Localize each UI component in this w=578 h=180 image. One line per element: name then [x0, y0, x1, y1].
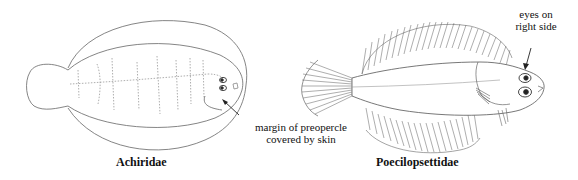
eyes-annotation: eyes on right side	[506, 8, 566, 32]
achiridae-drawing	[27, 21, 247, 150]
achiridae-eyes	[220, 77, 227, 90]
preopercle-annotation-line1: margin of preopercle	[236, 121, 366, 133]
preopercle-annotation: margin of preopercle covered by skin	[236, 121, 366, 145]
fish-illustrations	[0, 0, 578, 180]
eyes-annotation-line1: eyes on	[506, 8, 566, 20]
poecilopsettidae-arrow	[523, 48, 531, 70]
preopercle-annotation-line2: covered by skin	[236, 133, 366, 145]
caption-achiridae: Achiridae	[116, 155, 167, 170]
caption-poecilopsettidae: Poecilopsettidae	[376, 155, 459, 170]
eyes-annotation-line2: right side	[506, 20, 566, 32]
